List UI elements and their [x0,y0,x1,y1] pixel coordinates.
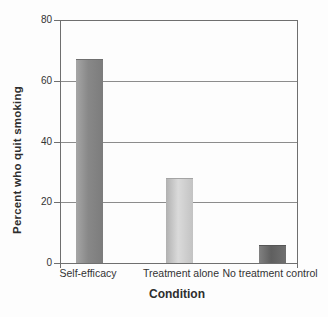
bar-no-treatment-control [259,245,286,263]
y-tick-mark [54,81,60,82]
bar-treatment-alone [166,178,193,263]
plot-border-right [297,20,298,264]
x-axis-title: Condition [149,287,205,301]
x-category-label: Self-efficacy [60,267,117,279]
plot-border-left [60,20,61,264]
y-tick-label: 40 [18,137,52,147]
x-category-label: No treatment control [222,267,317,279]
y-tick-mark [54,20,60,21]
plot-border-bottom [60,263,298,264]
y-tick-label: 80 [18,15,52,25]
y-tick-mark [54,142,60,143]
y-tick-mark [54,263,60,264]
bar-chart-figure: Percent who quit smoking 020406080Self-e… [0,0,328,317]
y-tick-label: 60 [18,76,52,86]
y-tick-label: 0 [18,258,52,268]
plot-border-top [60,20,298,21]
y-tick-mark [54,202,60,203]
x-category-label: Treatment alone [143,267,219,279]
y-tick-label: 20 [18,197,52,207]
bar-self-efficacy [76,59,103,263]
y-axis-title: Percent who quit smoking [11,86,23,234]
